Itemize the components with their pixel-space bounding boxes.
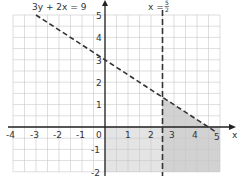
svg-text:5: 5 bbox=[96, 11, 102, 21]
svg-text:-2: -2 bbox=[53, 130, 62, 140]
svg-text:2: 2 bbox=[96, 78, 102, 88]
svg-text:3: 3 bbox=[96, 56, 102, 66]
svg-text:2: 2 bbox=[148, 130, 154, 140]
svg-text:-3: -3 bbox=[30, 130, 39, 140]
graph: 3y + 2x = 9 x = 5 2 x -4 -3 -2 -1 0 1 2 … bbox=[0, 0, 241, 179]
svg-text:4: 4 bbox=[192, 130, 198, 140]
svg-text:-1: -1 bbox=[91, 145, 100, 155]
svg-text:-4: -4 bbox=[6, 130, 15, 140]
svg-text:-1: -1 bbox=[76, 130, 85, 140]
x-axis-label: x bbox=[232, 130, 238, 140]
line-3y-plus-2x-eq-9 bbox=[36, 15, 216, 132]
y-axis-arrow-icon bbox=[102, 0, 108, 6]
svg-text:1: 1 bbox=[125, 130, 131, 140]
label-line2-den: 2 bbox=[165, 6, 169, 13]
svg-text:1: 1 bbox=[96, 100, 102, 110]
y-tick-labels: 5 4 3 2 1 -1 -2 bbox=[91, 11, 102, 178]
svg-text:-2: -2 bbox=[91, 168, 100, 178]
svg-text:0: 0 bbox=[96, 130, 102, 140]
svg-text:3: 3 bbox=[169, 130, 175, 140]
svg-text:4: 4 bbox=[96, 33, 102, 43]
label-line1: 3y + 2x = 9 bbox=[32, 2, 87, 12]
svg-text:5: 5 bbox=[214, 132, 220, 142]
label-line2-prefix: x = bbox=[148, 2, 164, 12]
